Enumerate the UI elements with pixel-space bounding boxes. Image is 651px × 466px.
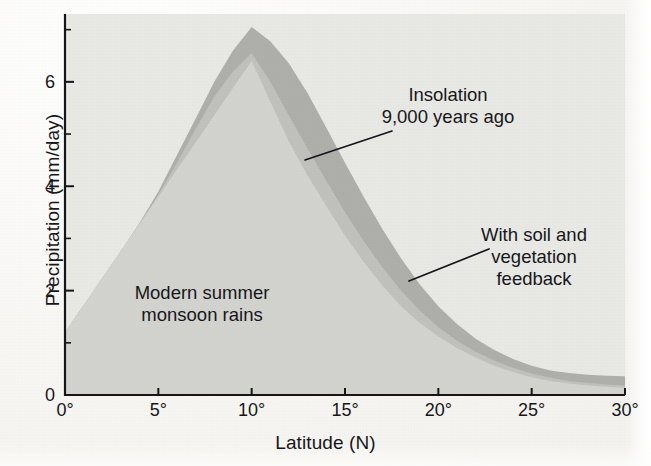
chart-annotation-modern: Modern summermonsoon rains bbox=[135, 282, 270, 326]
annotation-line: With soil and bbox=[481, 224, 587, 246]
y-axis-title: Precipitation (mm/day) bbox=[42, 60, 64, 360]
annotation-line: feedback bbox=[481, 268, 587, 290]
annotation-line: 9,000 years ago bbox=[382, 106, 515, 128]
x-tick-label: 15° bbox=[331, 400, 358, 421]
annotation-line: Modern summer bbox=[135, 282, 270, 304]
x-tick-label: 25° bbox=[518, 400, 545, 421]
chart-figure: 0°5°10°15°20°25°30°0246 Insolation9,000 … bbox=[0, 0, 651, 466]
x-tick-label: 30° bbox=[611, 400, 638, 421]
annotation-line: Insolation bbox=[382, 84, 515, 106]
chart-annotation-feedback: With soil andvegetationfeedback bbox=[481, 224, 587, 289]
x-tick-label: 5° bbox=[150, 400, 167, 421]
annotation-line: monsoon rains bbox=[135, 304, 270, 326]
x-axis-title: Latitude (N) bbox=[0, 432, 651, 454]
x-tick-label: 10° bbox=[238, 400, 265, 421]
x-tick-label: 20° bbox=[425, 400, 452, 421]
y-tick-label: 0 bbox=[21, 385, 55, 406]
x-tick-label: 0° bbox=[56, 400, 73, 421]
chart-annotation-insolation: Insolation9,000 years ago bbox=[382, 84, 515, 128]
annotation-line: vegetation bbox=[481, 246, 587, 268]
